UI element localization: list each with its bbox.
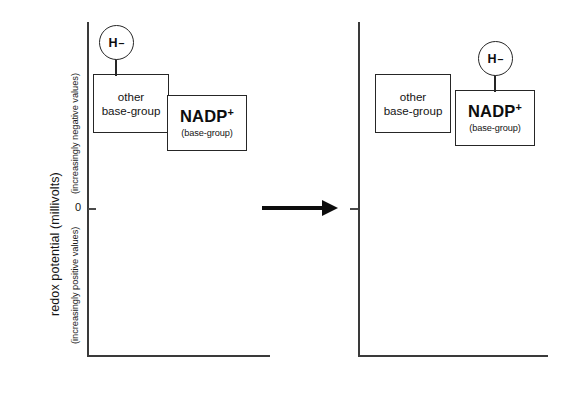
nadp-main: NADP <box>180 107 228 125</box>
hydride-symbol: H <box>488 52 497 66</box>
arrow-shaft <box>262 206 326 210</box>
nadp-sublabel: (base-group) <box>469 123 520 133</box>
box-label-line2: base-group <box>102 104 161 117</box>
box-other-base-group: other base-group <box>375 74 451 133</box>
hydride-symbol: H <box>109 36 118 50</box>
box-nadp: NADP+ (base-group) <box>167 95 247 151</box>
box-label-line2: base-group <box>384 104 443 117</box>
left-panel-zero-tick <box>88 208 96 210</box>
y-axis-negative-caption: (increasingly negative values) <box>70 73 80 194</box>
right-panel-baseline <box>358 355 548 357</box>
arrow-head-icon <box>322 200 338 216</box>
hydride-icon: H– <box>478 41 513 76</box>
nadp-label: NADP+ <box>180 107 234 126</box>
y-axis-title: redox potential (millivolts) <box>48 172 62 316</box>
reaction-arrow <box>262 200 340 216</box>
left-panel-y-axis <box>87 22 89 357</box>
y-axis-positive-caption: (increasingly positive values) <box>70 227 80 344</box>
box-label-line1: other <box>400 90 426 103</box>
nadp-charge: + <box>516 101 523 113</box>
box-other-base-group: other base-group <box>93 74 169 133</box>
box-label-line1: other <box>118 90 144 103</box>
nadp-main: NADP <box>468 102 516 120</box>
y-axis-zero-label: 0 <box>75 202 81 213</box>
nadp-label: NADP+ <box>468 102 522 121</box>
left-panel-baseline <box>87 355 270 357</box>
box-nadp: NADP+ (base-group) <box>455 90 535 146</box>
nadp-sublabel: (base-group) <box>181 128 232 138</box>
right-panel-y-axis <box>358 22 360 357</box>
nadp-charge: + <box>228 106 235 118</box>
redox-potential-diagram: redox potential (millivolts) (increasing… <box>0 0 579 394</box>
right-panel-zero-tick <box>350 208 358 210</box>
hydride-icon: H– <box>99 25 134 60</box>
